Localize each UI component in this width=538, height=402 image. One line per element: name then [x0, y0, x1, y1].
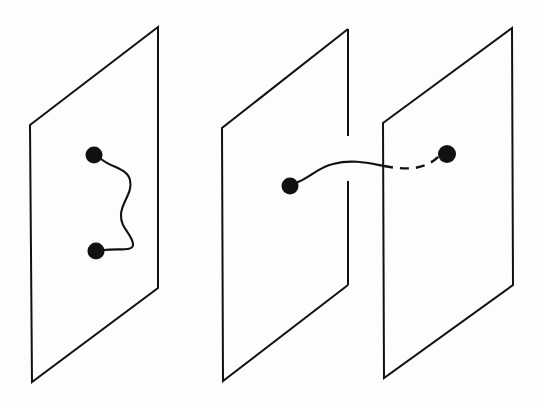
nodes-group	[86, 145, 457, 260]
right-plane-group	[383, 28, 513, 378]
left-plane-outline	[30, 27, 158, 382]
crossing-path-solid	[298, 162, 384, 182]
right-plane-outline	[383, 28, 513, 378]
middle-point	[282, 178, 299, 195]
figure-container	[0, 0, 538, 402]
left-upper-point	[86, 147, 103, 164]
crossing-path-dashed	[384, 156, 439, 168]
middle-plane-outline	[222, 29, 348, 381]
right-point	[438, 145, 456, 163]
wavy-path-in-plane	[101, 159, 133, 250]
left-lower-point	[88, 243, 105, 260]
paths-group	[101, 156, 439, 250]
left-plane-group	[30, 27, 158, 382]
middle-plane-group	[222, 29, 348, 381]
three-planes-diagram	[0, 0, 538, 402]
